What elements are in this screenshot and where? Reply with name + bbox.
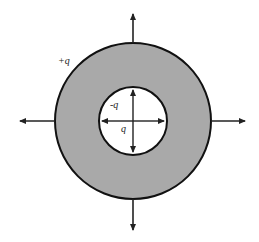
center-charge-label: q [121,123,126,134]
outer-charge-label: +q [58,55,70,66]
inner-surface-charge-label: -q [110,99,118,110]
shell-diagram: +q -q q [0,0,259,242]
diagram-canvas: +q -q q [0,0,259,242]
